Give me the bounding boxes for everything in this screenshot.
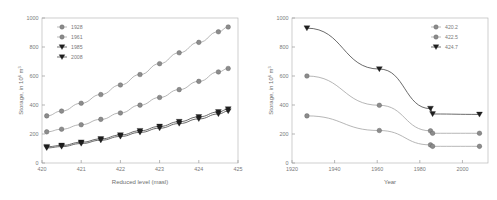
x-tick-label: 420 bbox=[38, 166, 47, 172]
legend-label-422.5: 422.5 bbox=[445, 34, 458, 40]
data-point-marker bbox=[216, 70, 221, 75]
data-point-marker bbox=[59, 109, 64, 114]
data-point-marker bbox=[305, 114, 310, 119]
data-point-marker bbox=[226, 66, 231, 71]
legend-label-1985: 1985 bbox=[71, 44, 83, 50]
data-point-marker bbox=[138, 103, 143, 108]
y-axis-title: Storage, in 106 m3 bbox=[18, 66, 24, 114]
chart-panel-left: 02004006008001000420421422423424425Reduc… bbox=[0, 0, 248, 200]
left-chart-svg: 02004006008001000420421422423424425Reduc… bbox=[0, 0, 248, 200]
data-point-marker bbox=[430, 144, 435, 149]
x-axis-title: Reduced level (masl) bbox=[112, 179, 168, 185]
data-point-marker bbox=[44, 130, 49, 135]
x-tick-label: 1920 bbox=[286, 166, 298, 172]
series-1961 bbox=[44, 66, 230, 134]
legend-marker-420.2 bbox=[434, 25, 438, 29]
legend-label-420.2: 420.2 bbox=[445, 24, 458, 30]
legend-marker-422.5 bbox=[434, 35, 438, 39]
data-point-marker bbox=[216, 29, 221, 34]
legend-marker-1928 bbox=[60, 25, 64, 29]
x-axis: 420421422423424425 bbox=[38, 160, 243, 172]
series-line bbox=[47, 27, 229, 116]
data-point-marker bbox=[305, 74, 310, 79]
legend-label-1928: 1928 bbox=[71, 24, 83, 30]
x-axis-title: Year bbox=[384, 179, 396, 185]
data-point-marker bbox=[226, 25, 231, 30]
legend-label-424.7: 424.7 bbox=[445, 44, 458, 50]
x-axis: 19201940196019802000 bbox=[286, 160, 468, 172]
data-point-marker bbox=[157, 61, 162, 66]
x-tick-label: 423 bbox=[155, 166, 164, 172]
data-point-marker bbox=[177, 87, 182, 92]
chart-panel-right: 0200400600800100019201940196019802000Yea… bbox=[248, 0, 496, 200]
series-line bbox=[307, 116, 480, 146]
series-line bbox=[307, 28, 480, 114]
data-point-marker bbox=[44, 114, 49, 119]
data-point-marker bbox=[430, 131, 435, 136]
data-point-marker bbox=[79, 101, 84, 106]
data-point-marker bbox=[138, 72, 143, 77]
series-420.2 bbox=[305, 114, 482, 149]
legend: 420.2422.5424.7 bbox=[431, 24, 458, 50]
x-tick-label: 1940 bbox=[329, 166, 341, 172]
y-tick-label: 600 bbox=[30, 73, 39, 79]
legend-marker-1961 bbox=[60, 35, 64, 39]
data-point-marker bbox=[118, 111, 123, 116]
data-point-marker bbox=[59, 127, 64, 132]
y-tick-label: 600 bbox=[280, 73, 289, 79]
data-point-marker bbox=[79, 122, 84, 127]
y-axis-title: Storage, in 106 m3 bbox=[268, 66, 274, 114]
data-point-marker bbox=[477, 144, 482, 149]
data-point-marker bbox=[177, 51, 182, 56]
y-tick-label: 800 bbox=[280, 44, 289, 50]
x-tick-label: 424 bbox=[194, 166, 203, 172]
y-tick-label: 200 bbox=[280, 131, 289, 137]
data-point-marker bbox=[99, 117, 104, 122]
y-tick-label: 400 bbox=[280, 102, 289, 108]
series-1985 bbox=[44, 107, 231, 150]
x-tick-label: 2000 bbox=[456, 166, 468, 172]
right-chart-svg: 0200400600800100019201940196019802000Yea… bbox=[248, 0, 497, 200]
series-422.5 bbox=[305, 74, 482, 136]
data-point-marker bbox=[197, 79, 202, 84]
data-point-marker bbox=[377, 103, 382, 108]
data-point-marker bbox=[377, 128, 382, 133]
plot-frame bbox=[292, 18, 488, 163]
series-2008 bbox=[44, 109, 231, 151]
data-point-marker bbox=[99, 92, 104, 97]
x-tick-label: 422 bbox=[116, 166, 125, 172]
y-tick-label: 400 bbox=[30, 102, 39, 108]
x-tick-label: 421 bbox=[77, 166, 86, 172]
series-line bbox=[307, 76, 480, 133]
legend-label-2008: 2008 bbox=[71, 54, 83, 60]
series-line bbox=[47, 68, 229, 131]
legend: 1928196119852008 bbox=[57, 24, 83, 60]
y-tick-label: 200 bbox=[30, 131, 39, 137]
y-tick-label: 1000 bbox=[277, 15, 289, 21]
x-tick-label: 1980 bbox=[414, 166, 426, 172]
data-point-marker bbox=[118, 83, 123, 88]
x-tick-label: 425 bbox=[234, 166, 243, 172]
data-point-marker bbox=[157, 95, 162, 100]
legend-label-1961: 1961 bbox=[71, 34, 83, 40]
data-point-marker bbox=[197, 40, 202, 45]
y-tick-label: 800 bbox=[30, 44, 39, 50]
x-tick-label: 1960 bbox=[371, 166, 383, 172]
data-point-marker bbox=[477, 131, 482, 136]
figure-two-panel-charts: 02004006008001000420421422423424425Reduc… bbox=[0, 0, 497, 200]
y-tick-label: 1000 bbox=[27, 15, 39, 21]
